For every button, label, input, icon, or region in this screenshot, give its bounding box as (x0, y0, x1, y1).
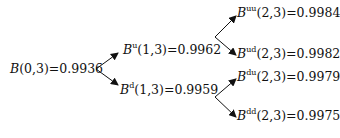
node-value: =0.9962 (167, 42, 221, 57)
node-symbol: B (123, 42, 132, 57)
node-value: =0.9959 (164, 82, 218, 97)
node-uu: Buu(2,3)=0.9984 (237, 7, 340, 20)
node-value: =0.9979 (286, 69, 340, 84)
arrow-d-to-dd (215, 97, 236, 117)
node-root: B(0,3)=0.9936 (10, 63, 103, 76)
node-du: Bdu(2,3)=0.9979 (237, 71, 340, 84)
node-value: =0.9975 (286, 108, 340, 123)
node-d: Bd(1,3)=0.9959 (120, 84, 218, 97)
arrow-u-to-uu (215, 16, 236, 37)
node-symbol: B (10, 61, 19, 76)
node-symbol: B (237, 46, 246, 61)
node-superscript: du (246, 68, 256, 77)
node-symbol: B (120, 82, 129, 97)
node-u: Bu(1,3)=0.9962 (123, 44, 221, 57)
node-args: (2,3) (257, 5, 287, 20)
node-symbol: B (237, 5, 246, 20)
node-value: =0.9936 (49, 61, 103, 76)
node-dd: Bdd(2,3)=0.9975 (237, 110, 340, 123)
node-superscript: dd (246, 107, 256, 116)
node-symbol: B (237, 108, 246, 123)
node-value: =0.9982 (286, 46, 340, 61)
node-args: (2,3) (256, 108, 286, 123)
node-args: (1,3) (134, 82, 164, 97)
node-args: (2,3) (256, 69, 286, 84)
node-superscript: uu (246, 4, 256, 13)
node-args: (0,3) (19, 61, 49, 76)
node-symbol: B (237, 69, 246, 84)
node-superscript: ud (246, 45, 256, 54)
node-value: =0.9984 (286, 5, 340, 20)
node-ud: Bud(2,3)=0.9982 (237, 48, 340, 61)
node-args: (1,3) (137, 42, 167, 57)
node-args: (2,3) (256, 46, 286, 61)
